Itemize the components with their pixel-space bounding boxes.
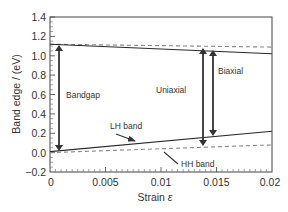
lh-band-label: LH band: [110, 121, 142, 131]
y-tick-label: −0.2: [25, 166, 46, 178]
y-tick-label: 1.4: [31, 11, 46, 23]
conduction-band-uniaxial-line: [50, 44, 272, 54]
hh-band-label: HH band: [181, 159, 215, 169]
x-tick-label: 0.015: [203, 176, 229, 188]
x-tick-label: 0.02: [260, 176, 281, 188]
y-tick-labels: 1.4 1.2 1.0 0.8 0.6 0.4 0.2 0.0 −0.2: [25, 11, 46, 178]
hh-band-pointer: [164, 152, 178, 164]
y-tick-label: 0.0: [31, 147, 46, 159]
band-edge-chart: 1.4 1.2 1.0 0.8 0.6 0.4 0.2 0.0 −0.2 0 0…: [0, 0, 288, 212]
y-axis-label: Band edge / (eV): [10, 54, 22, 133]
y-tick-label: 0.4: [31, 108, 46, 120]
uniaxial-label: Uniaxial: [156, 85, 186, 95]
y-tick-label: 1.0: [31, 50, 46, 62]
x-tick-label: 0: [48, 176, 54, 188]
x-tick-label: 0.005: [92, 176, 118, 188]
biaxial-label: Biaxial: [218, 66, 243, 76]
y-tick-label: 1.2: [31, 30, 46, 42]
x-tick-labels: 0 0.005 0.01 0.015 0.02: [48, 176, 280, 188]
y-tick-label: 0.8: [31, 69, 46, 81]
lh-band-line: [50, 131, 272, 151]
y-tick-label: 0.6: [31, 89, 46, 101]
lh-band-pointer: [116, 134, 135, 141]
y-tick-label: 0.2: [31, 127, 46, 139]
x-tick-label: 0.01: [151, 176, 172, 188]
x-axis-label: Strain ε: [138, 191, 173, 203]
bandgap-label: Bandgap: [66, 90, 100, 100]
